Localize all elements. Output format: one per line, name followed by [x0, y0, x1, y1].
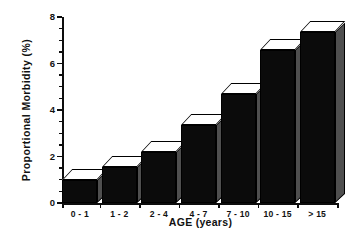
y-minor-tick — [59, 133, 62, 134]
y-minor-tick — [59, 98, 62, 99]
y-tick-label: 4 — [50, 105, 55, 115]
bar-side-face — [335, 23, 345, 203]
bar-7-10 — [221, 83, 256, 203]
x-tick-mark — [218, 203, 220, 208]
y-minor-tick — [59, 74, 62, 75]
y-tick-label: 2 — [50, 152, 55, 162]
bar-front-face — [181, 125, 216, 203]
x-tick-mark — [139, 203, 141, 208]
bar-10-15 — [260, 39, 295, 203]
y-minor-tick — [59, 51, 62, 52]
y-tick-mark — [57, 109, 62, 111]
x-tick-mark — [258, 203, 260, 208]
bar->15 — [300, 21, 335, 203]
bar-4-7 — [181, 114, 216, 203]
bar-front-face — [260, 50, 295, 203]
x-tick-mark — [100, 203, 102, 208]
x-axis-title: AGE (years) — [62, 216, 339, 228]
y-tick-mark — [57, 156, 62, 158]
bar-front-face — [102, 167, 137, 203]
bar-2-4 — [141, 141, 176, 203]
plot-area: 02468 0 - 11 - 22 - 44 - 77 - 1010 - 15>… — [62, 17, 339, 203]
bar-front-face — [141, 152, 176, 203]
y-tick-label: 6 — [50, 59, 55, 69]
y-minor-tick — [59, 86, 62, 87]
x-tick-mark — [179, 203, 181, 208]
x-tick-mark — [337, 203, 339, 208]
y-minor-tick — [59, 40, 62, 41]
bar-1-2 — [102, 156, 137, 203]
bar-0-1 — [62, 169, 97, 203]
bar-front-face — [62, 180, 97, 203]
y-tick-mark — [57, 16, 62, 18]
x-tick-mark — [297, 203, 299, 208]
y-minor-tick — [59, 121, 62, 122]
y-tick-label: 8 — [50, 12, 55, 22]
y-tick-label: 0 — [50, 198, 55, 208]
y-minor-tick — [59, 28, 62, 29]
x-tick-mark — [62, 203, 64, 208]
chart-figure: Proportional Morbidity (%) 02468 0 - 11 … — [0, 0, 346, 248]
bar-front-face — [300, 32, 335, 203]
y-tick-mark — [57, 63, 62, 65]
y-axis-title: Proportional Morbidity (%) — [20, 15, 32, 205]
y-minor-tick — [59, 144, 62, 145]
bar-front-face — [221, 94, 256, 203]
